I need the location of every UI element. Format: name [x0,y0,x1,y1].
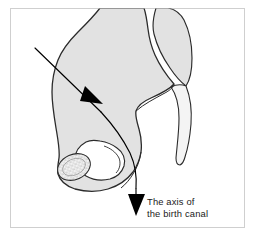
pelvis-birth-canal-diagram: The axis of the birth canal [0,0,255,240]
figure-container: The axis of the birth canal [0,0,255,240]
label-line-1: The axis of [147,196,195,207]
label-line-2: the birth canal [147,208,208,219]
